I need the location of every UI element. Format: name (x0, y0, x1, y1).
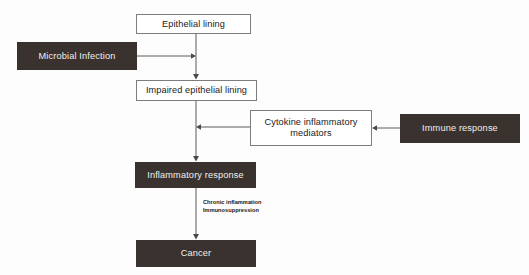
node-epithelial-lining-label: Epithelial lining (158, 19, 229, 30)
node-impaired-epithelial-lining-label: Impaired epithelial lining (142, 85, 251, 96)
node-inflammatory-response: Inflammatory response (135, 162, 256, 188)
flowchart-canvas: Epithelial lining Microbial Infection Im… (0, 0, 529, 275)
connector-immune-to-cytokine-head (372, 125, 377, 131)
node-inflammatory-response-label: Inflammatory response (143, 170, 248, 181)
node-cancer: Cancer (136, 240, 256, 267)
connector-epithelial-to-impaired-head (193, 74, 199, 80)
connector-microbial-to-trunk-head (191, 53, 196, 59)
node-microbial-infection-label: Microbial Infection (35, 51, 120, 62)
connector-impaired-to-inflammatory-head (193, 156, 199, 162)
node-cytokine-inflammatory-mediators: Cytokine inflammatory mediators (250, 110, 372, 146)
node-epithelial-lining: Epithelial lining (136, 14, 251, 34)
connector-inflammatory-to-cancer-head (193, 234, 199, 240)
edge-label-inflammatory-to-cancer: Chronic inflammation Immunosuppression (203, 198, 262, 214)
node-immune-response: Immune response (400, 114, 520, 143)
node-microbial-infection: Microbial Infection (17, 42, 137, 70)
node-impaired-epithelial-lining: Impaired epithelial lining (136, 80, 257, 101)
node-cytokine-inflammatory-mediators-label: Cytokine inflammatory mediators (261, 117, 362, 139)
node-immune-response-label: Immune response (418, 123, 502, 134)
node-cancer-label: Cancer (177, 248, 216, 259)
connector-cytokine-to-trunk-head (196, 124, 201, 130)
